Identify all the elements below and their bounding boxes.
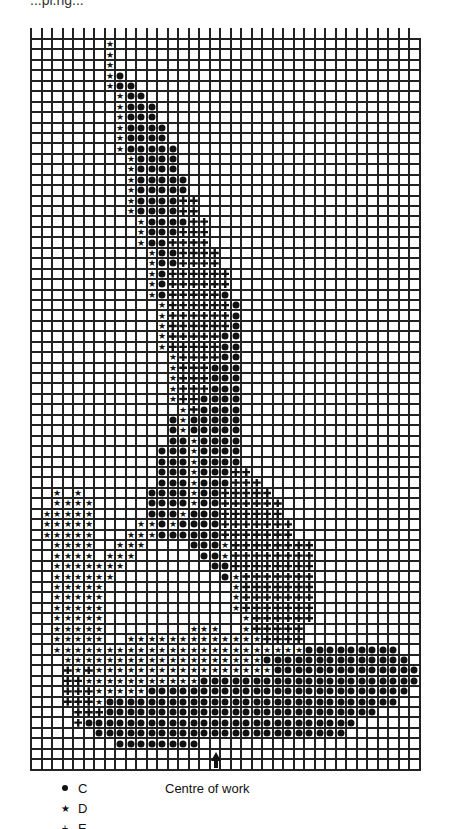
chart-cell — [169, 604, 180, 614]
chart-cell — [316, 228, 327, 238]
dot-icon — [159, 270, 166, 277]
chart-cell — [221, 124, 232, 134]
chart-cell — [263, 364, 274, 374]
star-icon: ★ — [137, 666, 145, 675]
chart-cell — [358, 729, 369, 739]
chart-cell — [95, 134, 106, 144]
chart-cell — [379, 228, 390, 238]
star-icon: ★ — [232, 645, 240, 654]
chart-cell — [400, 551, 411, 561]
dot-icon — [169, 260, 176, 267]
chart-cell — [116, 280, 127, 290]
chart-cell — [379, 604, 390, 614]
cross-icon — [305, 614, 313, 622]
grid-tick — [93, 28, 104, 38]
star-icon: ★ — [169, 353, 177, 362]
chart-cell — [284, 364, 295, 374]
chart-cell — [368, 531, 379, 541]
chart-cell — [263, 541, 274, 551]
chart-cell — [64, 395, 75, 405]
chart-cell — [305, 708, 316, 718]
chart-cell — [253, 458, 264, 468]
chart-cell — [295, 113, 306, 123]
dot-icon — [138, 197, 145, 204]
cross-icon — [221, 520, 229, 528]
chart-cell — [85, 113, 96, 123]
chart-cell — [400, 144, 411, 154]
chart-cell — [284, 468, 295, 478]
chart-cell — [326, 656, 337, 666]
chart-cell — [64, 82, 75, 92]
star-icon: ★ — [85, 509, 93, 518]
chart-cell — [295, 510, 306, 520]
chart-cell — [148, 144, 159, 154]
chart-cell — [190, 750, 201, 760]
chart-cell — [127, 332, 138, 342]
chart-cell — [274, 677, 285, 687]
chart-cell — [116, 478, 127, 488]
dot-icon — [201, 490, 208, 497]
cross-icon — [200, 249, 208, 257]
chart-cell — [400, 698, 411, 708]
chart-cell — [305, 468, 316, 478]
chart-cell — [337, 311, 348, 321]
chart-cell — [221, 583, 232, 593]
chart-cell — [263, 426, 274, 436]
chart-cell — [410, 343, 421, 353]
chart-cell — [347, 71, 358, 81]
dot-icon — [253, 709, 260, 716]
chart-cell — [305, 447, 316, 457]
chart-cell: ★ — [295, 645, 306, 655]
chart-cell — [232, 760, 243, 770]
chart-cell — [242, 437, 253, 447]
dot-icon — [337, 688, 344, 695]
chart-cell — [190, 217, 201, 227]
chart-cell — [158, 238, 169, 248]
chart-cell — [368, 332, 379, 342]
chart-cell — [32, 374, 43, 384]
chart-cell — [127, 92, 138, 102]
chart-cell — [221, 572, 232, 582]
chart-cell — [158, 50, 169, 60]
chart-cell — [190, 40, 201, 50]
chart-cell — [200, 760, 211, 770]
chart-cell — [95, 458, 106, 468]
chart-cell — [316, 698, 327, 708]
chart-cell — [410, 311, 421, 321]
cross-icon — [190, 312, 198, 320]
chart-cell — [32, 499, 43, 509]
chart-cell — [211, 280, 222, 290]
chart-cell — [410, 739, 421, 749]
chart-cell — [358, 447, 369, 457]
star-icon: ★ — [169, 635, 177, 644]
chart-cell — [316, 583, 327, 593]
chart-cell — [106, 593, 117, 603]
chart-cell — [148, 489, 159, 499]
chart-cell — [53, 458, 64, 468]
chart-cell — [347, 144, 358, 154]
dot-icon — [127, 740, 134, 747]
chart-cell — [116, 343, 127, 353]
chart-cell — [169, 176, 180, 186]
chart-cell — [253, 510, 264, 520]
dot-icon — [369, 657, 376, 664]
chart-cell — [337, 343, 348, 353]
chart-cell — [95, 416, 106, 426]
cross-icon — [85, 666, 93, 674]
chart-cell — [242, 155, 253, 165]
chart-cell — [263, 144, 274, 154]
dot-icon — [358, 667, 365, 674]
chart-cell — [295, 468, 306, 478]
chart-cell — [347, 197, 358, 207]
chart-cell — [116, 197, 127, 207]
chart-cell — [316, 197, 327, 207]
chart-cell — [368, 760, 379, 770]
chart-cell — [263, 520, 274, 530]
chart-cell — [410, 103, 421, 113]
chart-cell — [368, 708, 379, 718]
chart-cell — [242, 677, 253, 687]
chart-cell — [316, 405, 327, 415]
chart-cell — [106, 322, 117, 332]
chart-cell — [400, 489, 411, 499]
chart-cell — [274, 604, 285, 614]
